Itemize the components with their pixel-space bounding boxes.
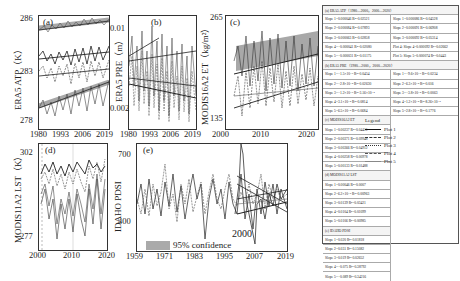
solid-line-icon (365, 129, 381, 130)
table-cell: Slope 5=−0.000031 R²=0.01175 (323, 52, 391, 60)
panel-e-xtick: 1995 (216, 251, 233, 261)
legend-item-plot-5: Plot 5 (365, 157, 425, 165)
table-cell: Slope 4=−0.075 R²=0.38792 (323, 263, 390, 271)
panel-c-ytick: 135 (210, 113, 223, 123)
panel-d-ytick: 277 (20, 231, 33, 241)
table-cell: Slope 1=0.00046 R²=0.0007 (323, 181, 390, 189)
table-cell: Slope 1=0.000046 R²=0.02521 (323, 15, 391, 23)
gray-line-icon (365, 161, 381, 162)
panel-d-xtick: 2010 (63, 250, 80, 260)
panel-b-era5-pre: (b) (128, 15, 197, 130)
table-section-e-header: (e) IDAHO PDSI (323, 227, 390, 236)
panel-a-xtick: 2006 (74, 129, 91, 139)
dash-dot-line-icon (365, 153, 381, 154)
table-cell: Slope 3=−1.2×10⁻⁷ R²=3.16×10⁻⁴ (323, 89, 391, 97)
table-row: Slope 5=−0.000031 R²=0.01175Plot 5: Slop… (323, 52, 458, 61)
dash-line-icon (365, 137, 381, 138)
panel-a-xtick: 1993 (52, 129, 69, 139)
table-cell: Slope 3=−3.8×10⁻⁸ R²=0.0063 (391, 89, 458, 97)
table-cell: Slope 2=0.031 R²=0.15082 (323, 245, 390, 253)
panel-d-modis11a2-lst: (d) (38, 143, 108, 251)
dotted-line-icon (365, 145, 381, 146)
table-cell: Slope 4=0.0104 R²=0.01099 (323, 208, 390, 216)
table-cell: Plot 5: Slope 5=0.000074 R²=0.0443 (391, 52, 458, 60)
panel-c-ylabel: MODIS16A2 ET（kg/m²） (198, 10, 211, 125)
panel-b-lines (129, 16, 196, 129)
table-row: Slope 2=0.000084 R²=0.07893Slope 2=0.000… (323, 24, 458, 33)
panel-b-ytick: 0.01 (110, 23, 125, 33)
table-row: Slope 1=−1.5×10⁻⁷ R²=0.0454Slope 1=−9.6×… (323, 70, 458, 79)
panel-e-idaho-pdsi: (e) 2000 (136, 143, 288, 252)
table-row: Slope 5=6.5×10⁻⁸ R²=0.0684Slope 5=2.8×10… (323, 107, 458, 116)
table-cell: Plot 4: Slope 4=0.000092 R²=0.02662 (391, 43, 458, 51)
table-row: Slope 1=0.000046 R²=0.02521Slope 1=0.000… (323, 15, 458, 24)
confidence-swatch (146, 241, 170, 250)
table-cell: Slope 5=−0.089 R²=0.34216 (323, 272, 390, 280)
panel-c-ytick: 265 (210, 12, 223, 22)
table-cell: Slope 2=−2.8×10⁻⁸ R²=0.02630 (323, 80, 391, 88)
table-cell: Slope 2=0.000091 R²=0.06908 (391, 24, 458, 32)
table-row: Slope 3=0.019 R²=0.02652 (323, 254, 390, 263)
panel-c-xtick: 2020 (298, 129, 315, 139)
panel-a-xtick: 2019 (96, 129, 113, 139)
table-cell: Slope 3=0.0139 R²=0.03421 (323, 199, 390, 207)
panel-e-xtick: 1983 (186, 251, 203, 261)
panel-b-xtick: 2006 (162, 129, 179, 139)
panel-d-lines (39, 144, 107, 250)
panel-e-ytick: 700 (118, 149, 131, 159)
panel-e-lines (137, 144, 287, 251)
table-cell: Slope 5=2.8×10⁻⁷ R²=0.1776 (391, 107, 458, 115)
table-cell: Slope 5=6.5×10⁻⁸ R²=0.0684 (323, 107, 391, 115)
table-cell: Slope 2=0.000084 R²=0.07893 (323, 24, 391, 32)
table-section-d-header: (d) MODIS11A2 LST (323, 171, 390, 180)
legend-label: Plot 1 (384, 127, 396, 132)
panel-a-ylabel: ERA5 ATP（K） (11, 10, 24, 110)
table-cell: Slope 1=−9.6×10⁻⁷ R²=0.0234 (391, 70, 458, 78)
table-cell: Slope 1=0.000086 R²=0.04528 (391, 15, 458, 23)
confidence-label: 95% confidence (173, 240, 231, 250)
panel-d-label: (d) (45, 145, 56, 155)
panel-e-xtick: 2007 (246, 251, 263, 261)
panel-b-label: (b) (151, 17, 162, 27)
table-cell: Slope 1=−1.5×10⁻⁷ R²=0.0454 (323, 70, 391, 78)
panel-a-xtick: 1980 (30, 129, 47, 139)
table-row: Slope 5=0.0106 R²=0.00985 (323, 217, 390, 226)
table-row: Slope 2=6.2×10⁻⁵ R²=0.00963 (323, 190, 390, 199)
legend-label: Plot 4 (384, 151, 396, 156)
panel-a-label: (a) (43, 17, 53, 27)
table-row: Slope 4=3.1×10⁻⁸ R²=0.0814Slope 4=1.2×10… (323, 98, 458, 107)
panel-c-modis16a2-et: (c) (225, 15, 319, 130)
panel-d-xtick: 2000 (29, 250, 46, 260)
panel-a-ytick: 278 (20, 115, 33, 125)
table-row: Slope 2=0.031 R²=0.15082 (323, 245, 390, 254)
line-legend: Legend Plot 1 Plot 2 Plot 3 Plot 4 Plot … (365, 118, 425, 165)
panel-b-xtick: 1993 (141, 129, 158, 139)
panel-d-xtick: 2020 (98, 250, 115, 260)
legend-item-plot-4: Plot 4 (365, 149, 425, 157)
panel-b-xtick: 1980 (120, 129, 137, 139)
table-cell: Slope 3=0.000063 R²=0.02858 (323, 34, 391, 42)
panel-c-xtick: 2010 (252, 129, 269, 139)
legend-title: Legend (365, 118, 425, 123)
table-cell: Slope 4=1.2×10⁻⁸ R²=8.26×10⁻⁵ (391, 98, 458, 106)
panel-a-ytick: 286 (20, 13, 33, 23)
legend-item-plot-2: Plot 2 (365, 133, 425, 141)
panel-c-lines (226, 16, 318, 129)
table-row: Slope 3=0.000063 R²=0.02858Slope 3=0.000… (323, 34, 458, 43)
panel-b-xtick: 2019 (184, 129, 201, 139)
panel-e-label: (e) (143, 145, 153, 155)
panel-d-ytick: 302 (20, 147, 33, 157)
table-row: Slope 4=−0.000041 R²=0.02080Plot 4: Slop… (323, 43, 458, 52)
panel-c-xtick: 2000 (212, 129, 229, 139)
table-row: Slope 3=0.0139 R²=0.03421 (323, 199, 390, 208)
table-row: Slope 3=−1.2×10⁻⁷ R²=3.16×10⁻⁴Slope 3=−3… (323, 89, 458, 98)
panel-e-xtick: 1959 (126, 251, 143, 261)
table-row: Slope 2=−2.8×10⁻⁸ R²=0.02630Slope 2=6.3×… (323, 80, 458, 89)
legend-item-plot-3: Plot 3 (365, 141, 425, 149)
table-row: Slope 4=0.0104 R²=0.01099 (323, 208, 390, 217)
table-cell: Slope 4=3.1×10⁻⁸ R²=0.0814 (323, 98, 391, 106)
panel-a-lines (39, 16, 109, 129)
table-row: Slope 1=0.00046 R²=0.0007 (323, 181, 390, 190)
panel-e-annotation-2000: 2000 (232, 228, 252, 239)
table-cell: Slope 3=0.000092 R²=0.05314 (391, 34, 458, 42)
